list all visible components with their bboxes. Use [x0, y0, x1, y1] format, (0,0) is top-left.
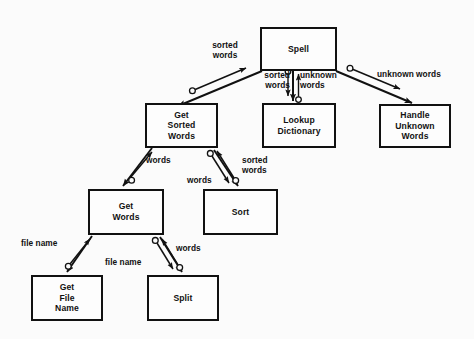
- flow-label-getsorted-sort-words: words: [187, 175, 219, 185]
- data-couple-circle-words: [177, 265, 183, 271]
- module-label-handle_unknown: Handle Unknown Words: [395, 110, 434, 142]
- module-label-get_file_name: Get File Name: [55, 282, 79, 314]
- flow-label-spell-handle-unknownwords: unknown words: [377, 69, 453, 79]
- flow-label-getwords-split-filename: file name: [105, 257, 153, 267]
- module-label-get_words: Get Words: [112, 201, 139, 222]
- data-couple-arrow: [194, 68, 246, 90]
- flow-label-spell-getsorted-sortedwords: sorted words: [199, 40, 251, 60]
- data-couple-circle-sorted-words: [233, 178, 239, 184]
- module-box-get_words[interactable]: Get Words: [88, 189, 164, 235]
- flow-label-getwords-split-words: words: [176, 243, 210, 253]
- module-box-split[interactable]: Split: [147, 275, 219, 321]
- data-couple-circle: [347, 65, 353, 71]
- module-box-get_file_name[interactable]: Get File Name: [31, 275, 103, 321]
- module-label-spell: Spell: [288, 44, 309, 55]
- data-couple-circle: [190, 88, 196, 94]
- flow-label-spell-lookup-sortedwords: sorted words: [256, 70, 290, 90]
- structure-chart-diagram: SpellGet Sorted WordsLookup DictionaryHa…: [0, 0, 474, 339]
- flow-label-getwords-getfile-filename: file name: [21, 238, 69, 248]
- module-box-handle_unknown[interactable]: Handle Unknown Words: [379, 104, 451, 148]
- module-label-get_sorted: Get Sorted Words: [168, 110, 196, 142]
- flow-label-getsorted-sort-sortedwords: sorted words: [242, 155, 278, 175]
- data-couple-arrow-file-name: [157, 243, 173, 269]
- connector-get-sorted-words-to-get-words: [123, 148, 152, 186]
- flow-label-spell-lookup-unknownwords: unknown words: [300, 70, 346, 90]
- invocation-arrow: [123, 148, 152, 186]
- module-box-get_sorted[interactable]: Get Sorted Words: [145, 103, 218, 148]
- data-couple-circle-words: [207, 151, 213, 157]
- flow-label-getsorted-getwords-words: words: [146, 155, 178, 165]
- module-label-split: Split: [173, 293, 192, 304]
- data-couple-arrow: [70, 239, 90, 264]
- module-label-sort: Sort: [232, 207, 250, 218]
- module-box-lookup_dict[interactable]: Lookup Dictionary: [262, 103, 336, 148]
- connector-get-words-to-get-file-name: [65, 236, 92, 272]
- data-couple-arrow-sorted-words: [217, 151, 234, 178]
- connector-spell-to-get-sorted-words: [178, 68, 262, 106]
- data-couple-circle: [65, 263, 71, 269]
- module-box-spell[interactable]: Spell: [260, 27, 337, 71]
- module-box-sort[interactable]: Sort: [203, 189, 278, 235]
- data-couple-circle-file-name: [152, 238, 158, 244]
- data-couple-circle: [129, 177, 135, 183]
- data-couple-circle-unknown-words: [296, 97, 302, 103]
- module-label-lookup_dict: Lookup Dictionary: [277, 115, 320, 136]
